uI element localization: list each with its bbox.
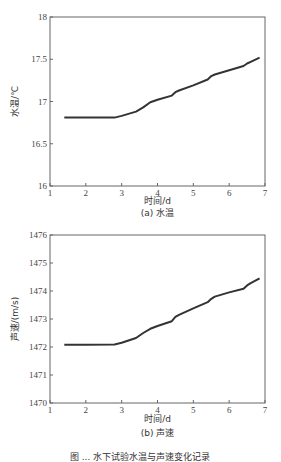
y-tick-label: 1471 (29, 370, 47, 380)
x-axis-label: 时间/d (144, 195, 171, 206)
x-tick-label: 2 (84, 405, 89, 415)
x-tick-label: 2 (84, 188, 89, 198)
y-tick-label: 1474 (29, 286, 48, 296)
x-tick-label: 5 (191, 188, 196, 198)
y-tick-label: 16.5 (31, 139, 47, 149)
x-tick-label: 5 (191, 405, 196, 415)
x-tick-label: 7 (263, 188, 268, 198)
subfigure-caption: (b) 声速 (141, 427, 175, 438)
x-tick-label: 1 (48, 405, 53, 415)
subfigure-caption: (a) 水温 (141, 207, 174, 218)
data-line (64, 278, 259, 344)
x-tick-label: 3 (119, 405, 124, 415)
x-tick-label: 3 (119, 188, 124, 198)
y-tick-label: 17.5 (31, 54, 47, 64)
y-tick-label: 16 (38, 181, 48, 191)
chart-sound-speed: 12345671470147114721473147414751476时间/d声… (9, 230, 268, 438)
x-tick-label: 7 (263, 405, 268, 415)
x-tick-label: 6 (227, 188, 232, 198)
plot-frame (50, 17, 265, 186)
y-tick-label: 18 (38, 12, 48, 22)
y-axis-label: 声速/(m/s) (9, 297, 20, 342)
y-tick-label: 1476 (29, 230, 48, 240)
plot-frame (50, 235, 265, 403)
figure-caption: 图 ... 水下试验水温与声速变化记录 (70, 451, 210, 462)
y-tick-label: 17 (38, 97, 48, 107)
y-tick-label: 1475 (29, 258, 48, 268)
data-line (64, 58, 259, 118)
x-axis-label: 时间/d (144, 413, 171, 424)
chart-water-temperature: 12345671616.51717.518时间/d水温/℃(a) 水温 (9, 12, 268, 218)
y-axis-label: 水温/℃ (9, 86, 20, 117)
y-tick-label: 1473 (29, 314, 48, 324)
y-tick-label: 1470 (29, 398, 48, 408)
figure: 12345671616.51717.518时间/d水温/℃(a) 水温12345… (0, 0, 281, 462)
y-tick-label: 1472 (29, 342, 47, 352)
x-tick-label: 1 (48, 188, 53, 198)
x-tick-label: 6 (227, 405, 232, 415)
